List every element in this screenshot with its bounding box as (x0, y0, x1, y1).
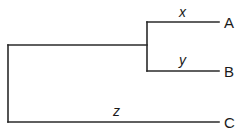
tree-lines (0, 0, 242, 135)
phylogenetic-tree: x y z A B C (0, 0, 242, 135)
taxon-label-a: A (224, 15, 234, 30)
taxon-label-b: B (224, 64, 234, 79)
branch-label-z: z (113, 104, 120, 118)
taxon-label-c: C (224, 115, 235, 130)
branch-label-x: x (179, 5, 186, 19)
branch-label-y: y (179, 53, 186, 67)
